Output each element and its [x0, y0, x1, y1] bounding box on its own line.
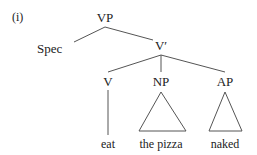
node-v-bar: V′	[155, 39, 167, 52]
node-np: NP	[153, 75, 170, 88]
branch-vp-vbar	[105, 27, 153, 40]
node-v: V	[103, 75, 112, 88]
node-vp: VP	[97, 11, 114, 24]
branch-vbar-v	[108, 55, 161, 72]
example-number-label: (i)	[12, 11, 23, 23]
syntax-tree-figure: (i) VP Spec V′ V NP AP eat the pizza nak…	[0, 0, 257, 155]
triangle-group	[139, 92, 242, 131]
branch-vbar-ap	[161, 55, 225, 72]
branch-group	[74, 27, 225, 135]
ap-triangle	[209, 92, 242, 131]
branch-vp-spec	[74, 27, 105, 42]
node-spec: Spec	[37, 42, 62, 55]
terminal-eat: eat	[101, 138, 115, 150]
np-triangle	[139, 92, 186, 131]
terminal-the-pizza: the pizza	[140, 138, 183, 150]
node-ap: AP	[217, 75, 234, 88]
terminal-naked: naked	[211, 138, 240, 150]
